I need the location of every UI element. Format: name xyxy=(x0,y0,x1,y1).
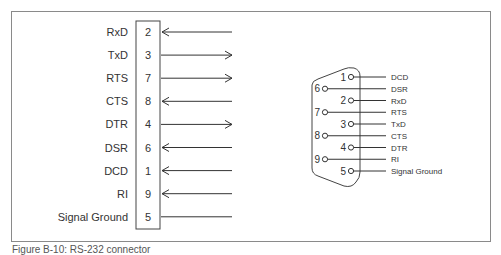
db9-pin-row: 4DTR xyxy=(340,142,407,153)
signal-row: Signal Ground5 xyxy=(58,211,232,223)
db9-pin-number: 6 xyxy=(314,83,320,94)
db9-signal-label: RI xyxy=(391,155,399,164)
db9-pin-row: 7RTS xyxy=(314,107,406,118)
db9-pin-row: 3TxD xyxy=(340,119,405,130)
figure-caption: Figure B-10: RS-232 connector xyxy=(12,244,150,255)
pin-socket-icon xyxy=(322,133,327,138)
signal-row: CTS8 xyxy=(106,95,232,107)
db9-pin-number: 2 xyxy=(340,95,346,106)
signal-row: RTS7 xyxy=(106,72,232,84)
pin-socket-icon xyxy=(348,168,353,173)
pin-socket-icon xyxy=(322,157,327,162)
pin-number: 7 xyxy=(145,72,151,84)
signal-label: Signal Ground xyxy=(58,211,128,223)
signal-label: RxD xyxy=(107,26,128,38)
signal-label: TxD xyxy=(108,49,128,61)
pin-socket-icon xyxy=(322,110,327,115)
db9-signal-label: CTS xyxy=(391,132,407,141)
pin-number: 3 xyxy=(145,49,151,61)
db9-signal-label: Signal Ground xyxy=(391,167,442,176)
db9-pin-row: 8CTS xyxy=(314,130,407,141)
db9-signal-label: RxD xyxy=(391,97,407,106)
db9-pin-row: 6DSR xyxy=(314,83,408,94)
db9-pin-row: 1DCD xyxy=(340,72,408,83)
signal-label: RTS xyxy=(106,72,128,84)
signal-row: DTR4 xyxy=(105,118,232,130)
db9-pin-number: 1 xyxy=(340,72,346,83)
pin-socket-icon xyxy=(322,86,327,91)
pin-socket-icon xyxy=(348,145,353,150)
db9-pin-row: 5Signal Ground xyxy=(340,166,442,177)
db9-pin-number: 9 xyxy=(314,154,320,165)
pin-number: 8 xyxy=(145,95,151,107)
signal-row: RxD2 xyxy=(107,26,232,38)
pin-number: 1 xyxy=(145,165,151,177)
db9-pin-number: 8 xyxy=(314,130,320,141)
signal-label: RI xyxy=(117,188,128,200)
db9-signal-label: DCD xyxy=(391,73,409,82)
db9-signal-label: TxD xyxy=(391,120,406,129)
pin-number: 2 xyxy=(145,26,151,38)
db9-pin-number: 5 xyxy=(340,166,346,177)
signal-label: DSR xyxy=(105,142,128,154)
pin-number: 5 xyxy=(145,211,151,223)
db9-signal-label: DSR xyxy=(391,85,408,94)
pin-socket-icon xyxy=(348,121,353,126)
signal-row: DSR6 xyxy=(105,142,232,154)
db9-pin-number: 3 xyxy=(340,119,346,130)
pin-number: 4 xyxy=(145,118,151,130)
signal-row: TxD3 xyxy=(108,49,232,61)
pin-number: 6 xyxy=(145,142,151,154)
db9-pin-number: 7 xyxy=(314,107,320,118)
pin-socket-icon xyxy=(348,74,353,79)
db9-pin-rows: 1DCD6DSR2RxD7RTS3TxD8CTS4DTR9RI5Signal G… xyxy=(314,72,442,177)
pin-number: 9 xyxy=(145,188,151,200)
signal-label: CTS xyxy=(106,95,128,107)
db9-pin-row: 9RI xyxy=(314,154,399,165)
signal-row: DCD1 xyxy=(104,165,232,177)
signal-row: RI9 xyxy=(117,188,232,200)
db9-signal-label: DTR xyxy=(391,144,408,153)
left-signal-rows: RxD2TxD3RTS7CTS8DTR4DSR6DCD1RI9Signal Gr… xyxy=(58,26,232,223)
db9-pin-number: 4 xyxy=(340,142,346,153)
signal-label: DTR xyxy=(105,118,128,130)
db9-pin-row: 2RxD xyxy=(340,95,406,106)
db9-signal-label: RTS xyxy=(391,108,407,117)
signal-label: DCD xyxy=(104,165,128,177)
pin-socket-icon xyxy=(348,98,353,103)
